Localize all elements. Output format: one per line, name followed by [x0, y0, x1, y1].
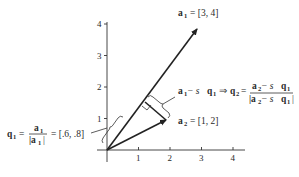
gram-schmidt-diagram: 1 2 3 4 1 2 3 4 a [0, 0, 299, 177]
label-a1: a 1 = [3, 4] [178, 8, 218, 19]
svg-text:= [1, 2]: = [1, 2] [190, 116, 218, 126]
y-tick-label-3: 3 [97, 51, 102, 61]
svg-text:− s: − s [261, 94, 274, 104]
svg-text:1: 1 [38, 139, 41, 146]
svg-text:− s: − s [261, 81, 274, 91]
svg-text:=: = [19, 129, 24, 139]
svg-text:− s: − s [187, 86, 200, 96]
svg-text:1: 1 [287, 98, 290, 105]
svg-text:a: a [34, 123, 39, 133]
svg-text:|a: |a [249, 94, 256, 104]
svg-text:|: | [292, 94, 294, 104]
y-tick-label-4: 4 [97, 19, 102, 29]
svg-text:2: 2 [184, 120, 187, 127]
q1-pointer [91, 128, 107, 133]
svg-text:1: 1 [287, 85, 290, 92]
svg-text:⇒: ⇒ [219, 86, 227, 96]
svg-text:1: 1 [13, 133, 16, 140]
x-tick-label-1: 1 [136, 153, 141, 163]
svg-text:|a: |a [29, 135, 36, 145]
svg-text:= [3, 4]: = [3, 4] [190, 8, 218, 18]
y-tick-label-2: 2 [97, 82, 102, 92]
y-tick-label-1: 1 [97, 114, 102, 124]
vector-a2-arrow [107, 120, 166, 150]
svg-text:a: a [252, 81, 257, 91]
svg-text:=: = [241, 86, 246, 96]
svg-text:2: 2 [236, 90, 239, 97]
label-a2: a 2 = [1, 2] [178, 116, 218, 127]
svg-text:|: | [43, 135, 45, 145]
svg-text:a: a [178, 116, 183, 126]
residual-pointer [163, 97, 175, 104]
svg-text:a: a [178, 86, 183, 96]
svg-text:a: a [178, 8, 183, 18]
label-q2: a 1 − s q 1 ⇒ q 2 = a 2 − s q 1 |a 2 − s… [178, 81, 294, 105]
svg-text:= [.6, .8]: = [.6, .8] [51, 129, 84, 139]
svg-text:1: 1 [184, 12, 187, 19]
x-tick-label-4: 4 [231, 153, 236, 163]
label-q1: q 1 = a 1 |a 1 | = [.6, .8] [7, 123, 84, 146]
svg-text:1: 1 [40, 127, 43, 134]
svg-text:1: 1 [213, 90, 216, 97]
x-tick-label-2: 2 [168, 153, 173, 163]
q1-brace [102, 116, 123, 143]
x-tick-label-3: 3 [199, 153, 204, 163]
